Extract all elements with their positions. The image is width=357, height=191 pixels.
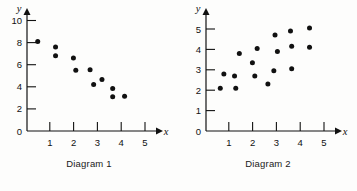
diagram-1-data-points: [35, 39, 127, 99]
diagram-2-caption: Diagram 2: [179, 158, 357, 169]
diagram-1-caption: Diagram 1: [0, 158, 178, 169]
data-point: [221, 71, 226, 76]
data-point: [255, 46, 260, 51]
data-point: [288, 29, 293, 34]
y-tick-label: 0: [17, 126, 22, 137]
y-tick-label: 1: [196, 105, 201, 116]
figure-container: 10 8 6 4 2 0 1 2 3 4 5 x y Diagram 1: [0, 0, 357, 191]
data-point: [122, 94, 127, 99]
y-tick-label: 0: [196, 126, 201, 137]
y-tick-label: 5: [196, 24, 201, 35]
y-tick-label: 4: [17, 81, 22, 92]
y-tick-label: 2: [196, 85, 201, 96]
diagram-2-data-points: [218, 25, 312, 90]
data-point: [275, 49, 280, 54]
x-tick-label: 3: [274, 137, 279, 148]
data-point: [271, 68, 276, 73]
x-tick-label: 5: [321, 137, 326, 148]
data-point: [110, 86, 115, 91]
diagram-1-y-tick-labels: 10 8 6 4 2 0: [11, 15, 22, 137]
data-point: [88, 67, 93, 72]
diagram-1-x-tick-labels: 1 2 3 4 5: [47, 137, 147, 148]
data-point: [252, 73, 257, 78]
diagram-2-x-tick-labels: 1 2 3 4 5: [226, 137, 326, 148]
y-axis-label: y: [195, 3, 201, 14]
data-point: [265, 82, 270, 87]
data-point: [273, 33, 278, 38]
data-point: [237, 51, 242, 56]
x-tick-label: 2: [250, 137, 255, 148]
data-point: [35, 39, 40, 44]
y-tick-label: 3: [196, 64, 201, 75]
data-point: [233, 86, 238, 91]
data-point: [289, 66, 294, 71]
y-tick-label: 2: [17, 103, 22, 114]
data-point: [99, 77, 104, 82]
y-axis-label: y: [16, 3, 22, 14]
diagram-2-y-tick-labels: 5 4 3 2 1 0: [196, 24, 201, 137]
data-point: [218, 86, 223, 91]
x-tick-label: 3: [95, 137, 100, 148]
data-point: [110, 94, 115, 99]
diagram-1-axes: [27, 14, 157, 131]
data-point: [73, 68, 78, 73]
diagram-2-panel: 5 4 3 2 1 0 1 2 3 4 5 x y Diagram 2: [179, 0, 357, 191]
data-point: [250, 60, 255, 65]
x-tick-label: 5: [142, 137, 147, 148]
y-tick-label: 8: [17, 37, 22, 48]
data-point: [71, 56, 76, 61]
diagram-1-x-ticks: [50, 122, 145, 131]
data-point: [307, 25, 312, 30]
diagram-1-y-ticks: [27, 21, 36, 109]
x-axis-label: x: [163, 126, 169, 137]
data-point: [307, 45, 312, 50]
diagram-2-plot: 5 4 3 2 1 0 1 2 3 4 5 x y: [179, 0, 357, 160]
x-tick-label: 2: [71, 137, 76, 148]
diagram-1-panel: 10 8 6 4 2 0 1 2 3 4 5 x y Diagram 1: [0, 0, 178, 191]
data-point: [91, 82, 96, 87]
diagram-2-y-ticks: [206, 29, 215, 111]
x-axis-label: x: [342, 126, 348, 137]
y-tick-label: 4: [196, 44, 201, 55]
data-point: [232, 73, 237, 78]
x-tick-label: 4: [119, 137, 124, 148]
x-tick-label: 1: [47, 137, 52, 148]
x-tick-label: 4: [298, 137, 303, 148]
diagram-2-x-ticks: [229, 122, 324, 131]
y-tick-label: 10: [11, 15, 22, 26]
data-point: [289, 44, 294, 49]
x-tick-label: 1: [226, 137, 231, 148]
y-tick-label: 6: [17, 59, 22, 70]
data-point: [53, 53, 58, 58]
data-point: [53, 45, 58, 50]
diagram-1-plot: 10 8 6 4 2 0 1 2 3 4 5 x y: [0, 0, 178, 160]
